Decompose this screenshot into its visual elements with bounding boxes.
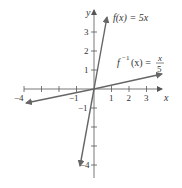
x-axis-label: x xyxy=(163,92,169,103)
svg-text:−1: −1 xyxy=(122,54,130,62)
y-tick-label-1: 1 xyxy=(84,65,89,75)
svg-text:(x) =: (x) = xyxy=(131,57,151,69)
x-tick-label--4: −4 xyxy=(14,93,24,103)
y-tick-label-3: 3 xyxy=(84,27,89,37)
y-axis-label: y xyxy=(85,7,91,18)
f-label: f(x) = 5x xyxy=(113,12,149,24)
f-line xyxy=(94,17,107,89)
x-tick-label-2: 2 xyxy=(127,93,132,103)
y-tick-label--1: −1 xyxy=(78,103,88,113)
x-tick-label-1: 1 xyxy=(109,93,114,103)
svg-text:x: x xyxy=(157,53,162,63)
svg-text:f: f xyxy=(117,57,121,68)
svg-text:5: 5 xyxy=(157,64,162,74)
x-tick-label-3: 3 xyxy=(144,93,149,103)
inverse-function-graph: −4 −1 1 2 3 3 2 1 −1 −4 x y f(x) = 5x f … xyxy=(0,0,182,188)
finv-line xyxy=(94,74,162,89)
finv-line-neg xyxy=(26,89,94,103)
y-tick-label-2: 2 xyxy=(84,46,89,56)
finv-label: f −1 (x) = x 5 xyxy=(117,53,164,74)
f-line-neg xyxy=(80,89,94,166)
